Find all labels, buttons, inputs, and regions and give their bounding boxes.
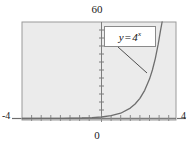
x-axis-origin-label: 0 — [0, 130, 194, 141]
x-axis-max-label: 4 — [181, 111, 186, 121]
equation-exponent: x — [138, 30, 141, 38]
curve-equation-callout: y=4x — [104, 26, 156, 47]
equation-operator: = — [124, 31, 132, 43]
x-axis-min-label: -4 — [2, 111, 10, 121]
exponential-function-figure: 60 — [0, 0, 194, 152]
curve-equation-text: y=4x — [119, 30, 142, 43]
